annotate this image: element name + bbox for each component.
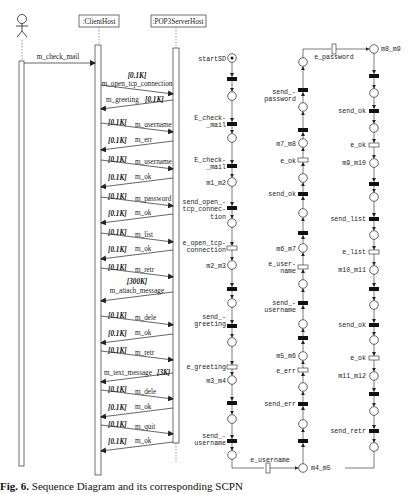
svg-text:send_-password: send_-password [264, 89, 296, 103]
place [370, 89, 379, 98]
client-activation-bar [95, 45, 101, 475]
place [370, 301, 379, 310]
immediate-transition [227, 246, 237, 250]
svg-text:m6_m7: m6_m7 [276, 246, 296, 253]
svg-text:m_username: m_username [135, 121, 172, 129]
place [370, 124, 379, 133]
place [370, 372, 379, 381]
svg-text:m_dele: m_dele [135, 388, 156, 396]
svg-text:e_open_tcp-connection: e_open_tcp-connection [182, 240, 226, 254]
svg-text:[0.1K]: [0.1K] [128, 72, 147, 80]
caption-text: Sequence Diagram and its corresponding S… [32, 480, 243, 492]
svg-text:send_list: send_list [330, 216, 366, 223]
caption-prefix: Fig. 6. [0, 480, 29, 492]
message-m-attach-message: [300K]m_attach_message [101, 278, 173, 301]
timed-transition [227, 206, 237, 210]
timed-transition [298, 439, 308, 443]
message-m-retr: [0.1K]m_retr [101, 347, 173, 360]
immediate-transition [298, 368, 308, 372]
timed-transition [369, 287, 379, 291]
svg-text:[0.1K]: [0.1K] [108, 264, 127, 272]
message-m-open-tcp-connection: [0.1K]m_open_tcp_connection [101, 72, 173, 94]
svg-text:m_greeting: m_greeting [106, 96, 139, 104]
place [228, 451, 237, 460]
place [299, 209, 308, 218]
svg-text:[3K]: [3K] [157, 369, 171, 377]
svg-text:send_err: send_err [264, 401, 296, 408]
message-m-quit: [0.1K]m_quit [101, 421, 173, 434]
svg-text:m_list: m_list [135, 231, 153, 239]
svg-text:m1_m2: m1_m2 [206, 180, 226, 187]
svg-text:m_open_tcp_connection: m_open_tcp_connection [102, 80, 173, 88]
message-m-list: [0.1K]m_list [101, 229, 173, 242]
server-activation-bar [173, 48, 179, 443]
message-check-mail: m_check_mail [24, 53, 95, 63]
timed-transition [227, 287, 237, 291]
svg-text:[0.1K]: [0.1K] [108, 312, 127, 320]
message-m-username: [0.1K]m_username [101, 156, 173, 169]
timed-transition [369, 429, 379, 433]
svg-text:e_password: e_password [314, 54, 354, 61]
place [228, 415, 237, 424]
svg-text:send_retr: send_retr [330, 428, 366, 435]
svg-text::ClientHost: :ClientHost [82, 18, 115, 26]
svg-text:m_retr: m_retr [135, 266, 155, 274]
message-m-ok: [0.1K]m_ok [101, 173, 173, 187]
place [228, 54, 237, 63]
svg-text:m_ok: m_ok [135, 437, 152, 445]
svg-text:e_ok: e_ok [350, 142, 366, 149]
place [299, 103, 308, 112]
svg-text:e_user-name: e_user-name [268, 261, 296, 275]
immediate-transition [266, 463, 270, 473]
svg-text:send_-username: send_-username [264, 300, 296, 314]
svg-text:[0.1K]: [0.1K] [108, 421, 127, 429]
message-m-greeting: m_greeting[0.1K] [101, 96, 173, 109]
svg-text:m_dele: m_dele [135, 314, 156, 322]
place [299, 139, 308, 148]
place [299, 244, 308, 253]
place [370, 266, 379, 275]
actor-activation-bar [19, 61, 24, 466]
place [228, 219, 237, 228]
svg-text:[0.1K]: [0.1K] [108, 246, 127, 254]
message-m-ok: [0.1K]m_ok [101, 209, 173, 223]
timed-transition [298, 192, 308, 196]
svg-text:E_check-_mail: E_check-_mail [194, 157, 226, 171]
svg-text:m10_m11: m10_m11 [338, 267, 366, 274]
svg-text:m_text_message: m_text_message [104, 369, 152, 377]
svg-text:send_open_-tcp_connec-tion: send_open_-tcp_connec-tion [182, 199, 226, 221]
timed-transition [227, 164, 237, 168]
actor-icon [16, 15, 28, 38]
svg-text:e_greeting: e_greeting [186, 364, 226, 371]
message-m-password: [0.1K]m_password [101, 193, 173, 206]
object-client-host: :ClientHost [79, 15, 119, 27]
svg-text:m_password: m_password [135, 195, 172, 203]
immediate-transition [369, 356, 379, 360]
place [299, 420, 308, 429]
place [299, 58, 308, 67]
timed-transition [298, 88, 308, 92]
message-m-username: [0.1K]m_username [101, 119, 173, 132]
place [228, 338, 237, 347]
timed-transition [298, 128, 308, 132]
message-m-ok: [0.1K]m_ok [101, 437, 173, 451]
timed-transition [227, 401, 237, 405]
timed-transition [369, 392, 379, 396]
svg-text::POP3ServerHost: :POP3ServerHost [152, 18, 203, 26]
immediate-transition [369, 143, 379, 147]
timed-transition [298, 336, 308, 340]
svg-text:[0.1K]: [0.1K] [145, 96, 164, 104]
svg-text:startSD: startSD [198, 56, 226, 63]
place [228, 261, 237, 270]
place [370, 231, 379, 240]
place [228, 299, 237, 308]
timed-transition [369, 323, 379, 327]
svg-text:e_ok: e_ok [280, 158, 296, 165]
svg-text:send_ok: send_ok [268, 191, 296, 198]
message-m-retr: [0.1K]m_retr [101, 264, 173, 277]
svg-text:m_check_mail: m_check_mail [37, 53, 79, 61]
timed-transition [227, 77, 237, 81]
svg-text:[0.1K]: [0.1K] [108, 210, 127, 218]
svg-text:[300K]: [300K] [127, 278, 148, 286]
svg-text:send_-greeting: send_-greeting [194, 314, 226, 328]
